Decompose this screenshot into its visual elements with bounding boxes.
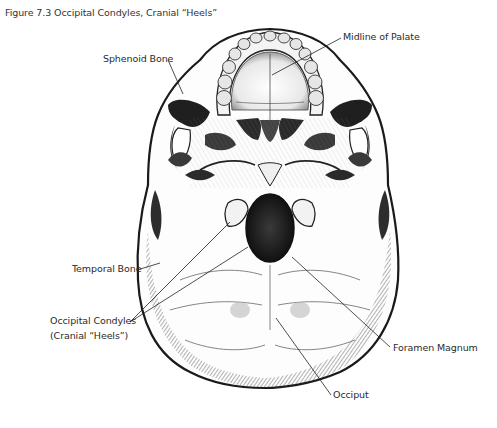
label-midline-of-palate: Midline of Palate — [343, 30, 420, 44]
label-foramen-magnum: Foramen Magnum — [393, 341, 478, 355]
label-occipital-condyles: Occipital Condyles — [50, 314, 136, 328]
label-sphenoid-bone: Sphenoid Bone — [103, 52, 173, 66]
skull-illustration — [0, 0, 497, 428]
label-cranial-heels: (Cranial “Heels”) — [50, 329, 128, 343]
label-occiput: Occiput — [333, 388, 369, 402]
foramen-magnum — [246, 194, 294, 262]
label-temporal-bone: Temporal Bone — [72, 262, 141, 276]
